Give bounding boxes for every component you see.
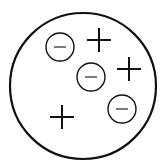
positive-charge: [50, 105, 74, 129]
negative-charge: [77, 63, 105, 91]
negative-charge: [46, 33, 74, 61]
charges-group: [46, 28, 141, 129]
container-circle: [10, 13, 156, 159]
plus-icon: [117, 57, 141, 81]
negative-charge: [108, 95, 136, 123]
positive-charge: [117, 57, 141, 81]
positive-charge: [87, 28, 111, 52]
charge-diagram: [0, 0, 167, 164]
plus-icon: [87, 28, 111, 52]
plus-icon: [50, 105, 74, 129]
